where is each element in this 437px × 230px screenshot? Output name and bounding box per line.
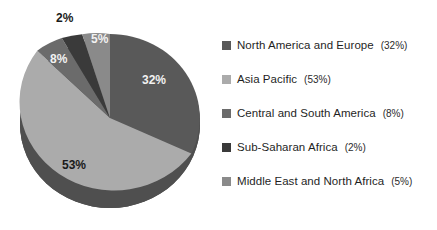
pie-slice-label-central-and-south-america: 8% <box>50 52 67 66</box>
legend-item-asia-pacific[interactable]: Asia Pacific (53%) <box>222 70 331 88</box>
pie-slice-label-north-america-and-europe: 32% <box>142 73 166 87</box>
legend-swatch-icon <box>222 177 231 186</box>
legend-swatch-icon <box>222 75 231 84</box>
legend-item-value: (53%) <box>304 74 331 85</box>
legend-item-north-america-and-europe[interactable]: North America and Europe (32%) <box>222 36 407 54</box>
legend-item-label: Middle East and North Africa <box>237 175 384 187</box>
legend-item-value: (32%) <box>381 40 408 51</box>
chart-legend: North America and Europe (32%) Asia Paci… <box>222 31 437 206</box>
pie-slice-label-asia-pacific: 53% <box>62 158 86 172</box>
pie-chart-plot: 32% 53% 8% 2% 5% <box>0 0 215 230</box>
legend-item-value: (8%) <box>383 108 404 119</box>
legend-item-middle-east-and-north-africa[interactable]: Middle East and North Africa (5%) <box>222 172 412 190</box>
legend-item-value: (5%) <box>391 176 412 187</box>
legend-item-label: North America and Europe <box>237 39 374 51</box>
pie-slice-label-sub-saharan-africa: 2% <box>56 11 73 25</box>
pie-slice-label-middle-east-and-north-africa: 5% <box>91 32 108 46</box>
legend-item-label: Central and South America <box>237 107 376 119</box>
legend-swatch-icon <box>222 143 231 152</box>
legend-item-value: (2%) <box>345 142 366 153</box>
legend-item-central-and-south-america[interactable]: Central and South America (8%) <box>222 104 404 122</box>
legend-item-label: Asia Pacific <box>237 73 297 85</box>
legend-item-label: Sub-Saharan Africa <box>237 141 338 153</box>
legend-swatch-icon <box>222 41 231 50</box>
legend-swatch-icon <box>222 109 231 118</box>
legend-item-sub-saharan-africa[interactable]: Sub-Saharan Africa (2%) <box>222 138 366 156</box>
pie-chart-figure: 32% 53% 8% 2% 5% North America and Europ… <box>0 0 437 230</box>
